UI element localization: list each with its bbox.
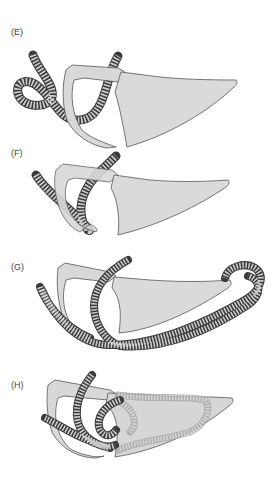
panel-label-g: (G)	[11, 262, 24, 272]
panel-f	[36, 156, 229, 235]
panel-label-e: (E)	[11, 27, 23, 37]
scapula-bone	[111, 175, 229, 235]
panel-e	[18, 55, 237, 148]
panel-g	[40, 260, 261, 347]
panel-h	[45, 375, 233, 458]
panel-label-h: (H)	[11, 380, 24, 390]
diagram-canvas: (E) (F) (G) (H)	[0, 0, 278, 480]
scapula-bone	[115, 72, 237, 147]
panel-label-f: (F)	[11, 148, 23, 158]
